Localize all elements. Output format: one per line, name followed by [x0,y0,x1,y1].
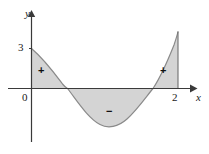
y-axis-label: y [25,8,30,19]
sign-label-left-plus: + [38,65,44,76]
figure-container: y x 3 0 2 + − + [0,0,209,154]
sign-label-right-plus: + [160,65,166,76]
shaded-regions [32,32,179,127]
origin-label: 0 [22,92,28,103]
sign-label-middle-minus: − [106,106,112,117]
plot-area [0,0,209,154]
x-axis-label: x [196,92,201,103]
x-tick-label-2: 2 [172,92,178,103]
y-tick-label-3: 3 [18,42,24,53]
right-shaded-region [153,32,178,89]
